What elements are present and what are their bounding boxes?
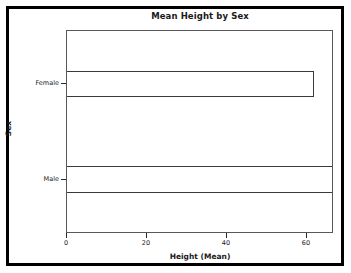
- xtick-mark-0: [66, 233, 67, 238]
- y-axis-title: Sex: [4, 109, 13, 149]
- xtick-label-40: 40: [211, 239, 241, 247]
- bar-male: [66, 166, 333, 193]
- x-axis-title: Height (Mean): [66, 252, 334, 261]
- chart-figure: Mean Height by Sex Female Male 0 20 40 6…: [0, 0, 351, 273]
- ytick-label-male: Male: [21, 175, 59, 183]
- chart-title: Mean Height by Sex: [66, 11, 334, 21]
- bar-female: [66, 71, 314, 97]
- ytick-mark-male: [61, 179, 66, 180]
- xtick-label-0: 0: [51, 239, 81, 247]
- xtick-mark-20: [146, 233, 147, 238]
- xtick-label-20: 20: [131, 239, 161, 247]
- ytick-label-female: Female: [21, 79, 59, 87]
- ytick-mark-female: [61, 83, 66, 84]
- xtick-label-60: 60: [291, 239, 321, 247]
- xtick-mark-40: [226, 233, 227, 238]
- plot-area: [66, 30, 333, 233]
- xtick-mark-60: [306, 233, 307, 238]
